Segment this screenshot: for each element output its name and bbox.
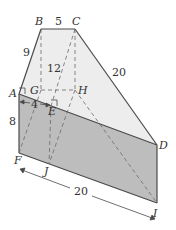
label-H: H: [77, 84, 88, 97]
measure-AF: 8: [9, 115, 16, 128]
label-B: B: [34, 15, 43, 28]
measure-BC: 5: [55, 15, 62, 28]
measure-AB: 9: [23, 46, 30, 59]
measure-height: 12: [47, 62, 61, 75]
measure-CD: 20: [112, 66, 126, 79]
label-A: A: [8, 87, 17, 100]
label-F: F: [13, 154, 22, 167]
label-E: E: [47, 105, 56, 118]
label-D: D: [158, 139, 168, 152]
measure-AE: 4: [31, 98, 38, 111]
label-C: C: [72, 15, 81, 28]
label-J: J: [42, 165, 49, 178]
label-G: G: [30, 84, 39, 97]
prism-diagram: B C A G H E F J D I 5 9 12 20 4 8 20: [0, 0, 176, 230]
measure-FI: 20: [74, 185, 88, 198]
label-I: I: [152, 207, 158, 220]
